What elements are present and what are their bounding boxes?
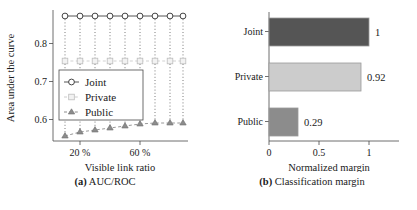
bar-category-label-public: Public (237, 116, 263, 127)
bar-private[interactable] (269, 63, 361, 91)
panel-a-caption: (a) AUC/ROC (0, 176, 210, 187)
y-tick-label-0.6: 0.6 (35, 114, 48, 125)
bar-value-private: 0.92 (367, 72, 385, 83)
figure-container: Area under the curve 0.8 0.7 0.6 20 % 60… (0, 0, 417, 210)
bar-category-label-private: Private (235, 71, 264, 82)
legend-label-private: Private (85, 91, 116, 103)
bar-public[interactable] (269, 108, 298, 136)
legend-label-public: Public (85, 106, 113, 118)
series-public (62, 120, 186, 138)
series-private (62, 58, 186, 64)
panel-classification-margin: Joint Private Public 1 0.92 0.29 0 0.5 (207, 0, 417, 210)
x-axis-label: Normalized margin (288, 162, 370, 172)
classification-margin-plot: Joint Private Public 1 0.92 0.29 0 0.5 (207, 0, 417, 172)
bar-category-label-joint: Joint (244, 26, 264, 37)
panel-a-caption-text: AUC/ROC (89, 176, 136, 187)
x-tick-label-0: 0 (267, 147, 272, 158)
y-tick-label-0.7: 0.7 (35, 76, 48, 87)
y-axis-label: Area under the curve (5, 33, 16, 122)
legend-marker-circle-icon (69, 79, 75, 85)
x-tick-label-0.5: 0.5 (313, 147, 326, 158)
x-tick-label-60: 60 % (130, 147, 151, 158)
auc-roc-plot: Area under the curve 0.8 0.7 0.6 20 % 60… (0, 0, 210, 172)
bar-joint[interactable] (269, 18, 369, 46)
panel-a-caption-tag: (a) (75, 176, 87, 187)
panel-b-caption-tag: (b) (259, 176, 272, 187)
x-axis-label: Visible link ratio (85, 162, 156, 172)
panel-auc-roc: Area under the curve 0.8 0.7 0.6 20 % 60… (0, 0, 210, 210)
series-joint (62, 13, 186, 19)
x-tick-label-1: 1 (367, 147, 372, 158)
legend: Joint Private Public (59, 70, 143, 120)
y-tick-label-0.8: 0.8 (35, 38, 48, 49)
bar-value-public: 0.29 (304, 117, 322, 128)
panel-b-caption: (b) Classification margin (207, 176, 417, 187)
panel-b-caption-text: Classification margin (275, 176, 365, 187)
legend-label-joint: Joint (85, 76, 106, 88)
x-tick-label-20: 20 % (70, 147, 91, 158)
legend-marker-square-icon (69, 94, 75, 100)
bar-value-joint: 1 (375, 27, 380, 38)
